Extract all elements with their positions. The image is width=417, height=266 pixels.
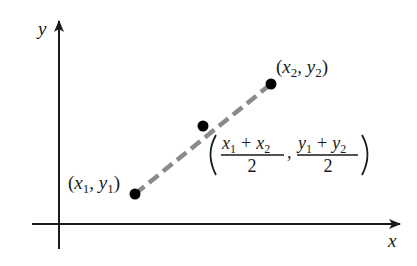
fraction-1-denominator: 2: [248, 156, 257, 176]
right-paren: [362, 135, 368, 175]
fraction-2-numerator: y1+y2: [296, 133, 346, 156]
fraction-2-denominator: 2: [324, 156, 333, 176]
y-axis-label: y: [36, 18, 47, 39]
x-axis-label: x: [387, 230, 397, 251]
midpoint-comma: ,: [287, 142, 292, 162]
point-1: [130, 189, 141, 200]
point-2: [266, 79, 277, 90]
fraction-1-numerator: x1+x2: [221, 133, 270, 156]
midpoint-label: x1+x2 2 , y1+y2 2: [211, 133, 368, 176]
point-1-label: (x1, y1): [68, 172, 120, 196]
midpoint: [198, 121, 209, 132]
left-paren: [211, 135, 217, 175]
midpoint-diagram: y x (x1, y1) (x2, y2) x1+x2 2 , y1+y2 2: [0, 0, 417, 266]
point-2-label: (x2, y2): [276, 56, 328, 80]
